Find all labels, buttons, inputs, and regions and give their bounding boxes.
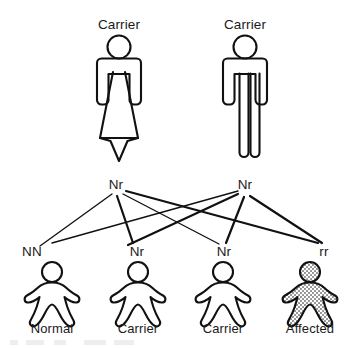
child-caption-2: Carrier [118, 322, 158, 335]
inheritance-lines-mother [40, 191, 318, 246]
child-genotype-1: NN [22, 245, 42, 259]
cropped-caption-artifact [10, 340, 190, 345]
parent-caption-mother: Carrier [98, 18, 140, 32]
female-figure-icon [97, 36, 141, 162]
parent-genotype-father: Nr [238, 178, 253, 192]
child-caption-4: Affected [286, 322, 334, 335]
pedigree-diagram: Carrier Carrier Nr Nr NN Nr Nr rr Normal… [0, 0, 361, 348]
child-caption-1: Normal [31, 322, 74, 335]
child-figure-icon [25, 262, 80, 326]
child-figure-icon [111, 262, 166, 326]
child-figure-affected-icon [283, 262, 338, 326]
male-figure-icon [223, 36, 267, 158]
child-figure-icon [196, 262, 251, 326]
inheritance-lines-father [52, 191, 322, 245]
child-caption-3: Carrier [203, 322, 243, 335]
child-genotype-2: Nr [130, 245, 145, 259]
pedigree-graphics [0, 0, 361, 348]
parent-genotype-mother: Nr [109, 178, 124, 192]
child-genotype-3: Nr [217, 245, 232, 259]
parent-caption-father: Carrier [224, 18, 266, 32]
child-genotype-4: rr [319, 245, 328, 259]
